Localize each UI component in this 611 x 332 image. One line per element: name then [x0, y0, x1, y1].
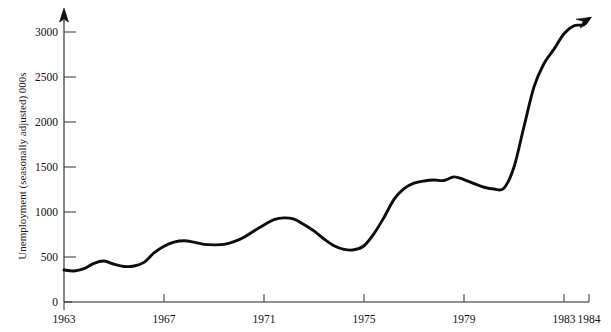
y-tick-label-3000: 3000: [35, 26, 58, 38]
y-axis-up-arrow-icon: [60, 8, 69, 22]
y-tick-label-0: 0: [52, 296, 58, 308]
y-tick-label-1500: 1500: [35, 161, 58, 173]
x-tick-label-1975: 1975: [353, 313, 376, 325]
y-tick-label-2000: 2000: [35, 116, 58, 128]
x-tick-label-1967: 1967: [153, 313, 176, 325]
x-tick-label-1979: 1979: [453, 313, 476, 325]
chart-page: Unemployment (seasonally adjusted) 000s …: [0, 0, 611, 332]
x-tick-label-1963: 1963: [53, 313, 76, 325]
unemployment-line-chart: Unemployment (seasonally adjusted) 000s …: [0, 0, 611, 332]
y-axis-ticks: [64, 32, 76, 302]
x-tick-label-1983: 1983: [553, 313, 576, 325]
y-tick-label-1000: 1000: [35, 206, 58, 218]
y-axis-title: Unemployment (seasonally adjusted) 000s: [16, 72, 29, 259]
x-tick-label-1984: 1984: [578, 313, 601, 325]
y-tick-label-500: 500: [41, 251, 59, 263]
y-tick-label-2500: 2500: [35, 71, 58, 83]
unemployment-data-line: [64, 19, 589, 271]
x-tick-label-1971: 1971: [253, 313, 276, 325]
